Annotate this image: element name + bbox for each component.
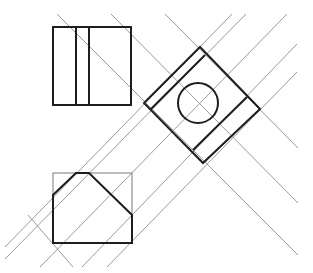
top-view-outline: [53, 27, 131, 105]
construction-line: [28, 215, 73, 267]
construction-lines: [5, 14, 298, 267]
construction-line: [57, 14, 298, 255]
bottom-view: [53, 173, 132, 243]
bottom-view-profile: [53, 173, 132, 243]
top-view: [53, 27, 131, 105]
hole-circle: [178, 83, 218, 123]
construction-line: [40, 14, 287, 267]
construction-line: [82, 44, 297, 267]
projection-drawing: [0, 0, 313, 273]
construction-line: [165, 14, 298, 148]
top-view-inner-lines: [76, 27, 89, 105]
